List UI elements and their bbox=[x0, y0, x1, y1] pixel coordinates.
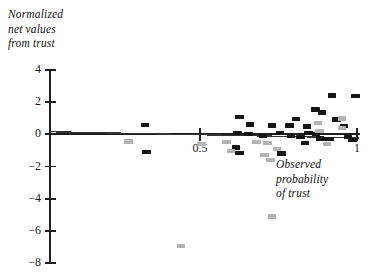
tick-marks bbox=[45, 70, 357, 263]
data-point-marker bbox=[287, 134, 296, 138]
data-point-marker bbox=[315, 129, 324, 133]
data-point-marker bbox=[276, 131, 285, 135]
data-point-marker bbox=[222, 140, 231, 144]
data-point-marker bbox=[268, 214, 277, 218]
y-tick-label: −8 bbox=[28, 255, 41, 270]
data-point-marker bbox=[338, 126, 347, 130]
y-tick-label: −2 bbox=[28, 159, 41, 174]
data-point-marker bbox=[142, 150, 151, 154]
y-tick-label: 2 bbox=[35, 94, 41, 109]
y-tick-label: 4 bbox=[35, 62, 41, 77]
data-point-marker bbox=[328, 93, 337, 97]
data-point-marker bbox=[273, 147, 282, 151]
data-point-marker bbox=[323, 142, 332, 146]
data-point-marker bbox=[263, 141, 272, 145]
data-point-marker bbox=[338, 116, 347, 120]
data-point-marker bbox=[197, 142, 206, 146]
data-point-marker bbox=[296, 135, 305, 139]
data-point-marker bbox=[246, 122, 255, 126]
data-point-marker bbox=[268, 123, 277, 127]
axis-lines bbox=[50, 69, 359, 264]
data-point-marker bbox=[266, 158, 275, 162]
data-point-marker bbox=[318, 110, 327, 114]
data-point-marker bbox=[124, 139, 133, 143]
data-point-marker bbox=[244, 132, 253, 136]
data-point-marker bbox=[292, 117, 301, 121]
data-point-marker bbox=[177, 244, 186, 248]
data-point-marker bbox=[141, 123, 150, 127]
y-tick-label: 0 bbox=[35, 126, 41, 141]
data-point-marker bbox=[348, 138, 357, 142]
data-point-marker bbox=[285, 123, 294, 127]
data-point-marker bbox=[260, 153, 269, 157]
x-tick-label: 1 bbox=[337, 141, 374, 156]
y-tick-label: −4 bbox=[28, 191, 41, 206]
scatter-chart: Normalized net values from trust Observe… bbox=[0, 0, 374, 277]
data-point-marker bbox=[325, 137, 334, 141]
data-point-marker bbox=[233, 131, 242, 135]
data-point-marker bbox=[252, 140, 261, 144]
data-point-marker bbox=[235, 115, 244, 119]
data-point-marker bbox=[259, 134, 268, 138]
y-tick-label: −6 bbox=[28, 223, 41, 238]
data-point-marker bbox=[301, 141, 310, 145]
data-point-marker bbox=[303, 124, 312, 128]
data-point-marker bbox=[351, 94, 360, 98]
data-point-marker bbox=[277, 151, 286, 155]
data-point-marker bbox=[235, 151, 244, 155]
data-point-marker bbox=[227, 149, 236, 153]
data-point-marker bbox=[314, 121, 323, 125]
